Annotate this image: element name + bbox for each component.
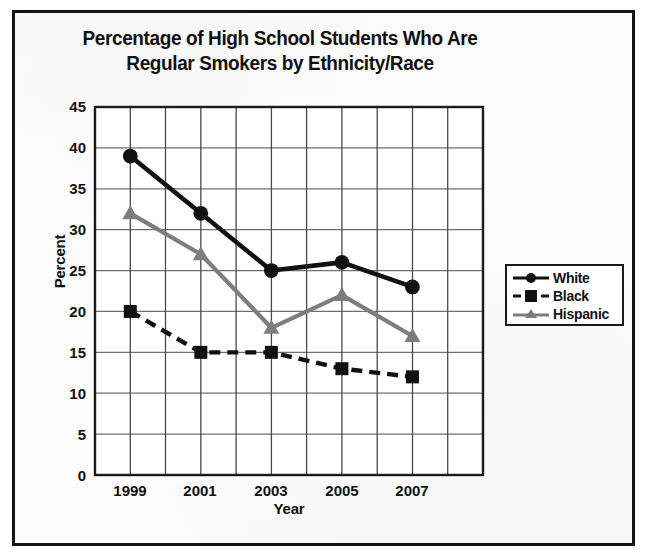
legend-item-black: Black	[511, 287, 618, 305]
x-tick-label-2005: 2005	[312, 482, 372, 499]
x-tick-label-2003: 2003	[241, 482, 301, 499]
legend-marker-circle-icon	[511, 270, 551, 286]
legend-item-white: White	[511, 269, 618, 287]
y-tick-label-10: 10	[52, 385, 86, 402]
y-tick-label-15: 15	[52, 344, 86, 361]
legend-label-white: White	[553, 270, 590, 286]
x-axis-title: Year	[95, 500, 483, 517]
x-tick-label-1999: 1999	[100, 482, 160, 499]
plot-background	[95, 107, 483, 475]
legend-label-hispanic: Hispanic	[553, 306, 609, 322]
x-tick-label-2001: 2001	[170, 482, 230, 499]
y-tick-label-35: 35	[52, 180, 86, 197]
legend-marker-square-icon	[511, 288, 551, 304]
y-axis-title: Percent	[51, 217, 68, 307]
legend-label-black: Black	[553, 288, 589, 304]
y-tick-label-5: 5	[52, 426, 86, 443]
plot-area: 45 40 35 30 25 20 15 10 5 0 1999 2001 20…	[0, 0, 647, 558]
y-tick-label-0: 0	[52, 467, 86, 484]
chart-legend: White Black Hispanic	[505, 264, 624, 326]
legend-item-hispanic: Hispanic	[511, 305, 618, 323]
y-tick-label-45: 45	[52, 98, 86, 115]
x-tick-label-2007: 2007	[382, 482, 442, 499]
y-tick-label-40: 40	[52, 139, 86, 156]
legend-marker-triangle-icon	[511, 306, 551, 322]
